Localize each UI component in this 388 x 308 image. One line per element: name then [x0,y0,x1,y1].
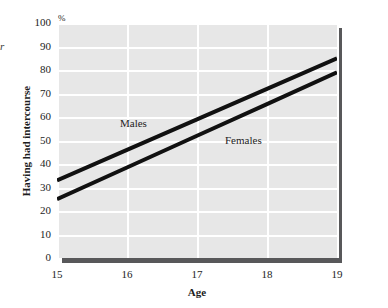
cropped-caption-fragment: r [0,40,7,52]
y-axis-tick-label: 0 [21,252,51,263]
y-axis-tick-label: 100 [21,17,51,28]
series-line-males [57,58,337,180]
x-axis-tick-label: 19 [320,268,354,280]
x-axis-tick-label: 15 [40,268,74,280]
x-axis-title: Age [57,286,337,298]
series-line-females [57,72,337,199]
y-axis-unit-label: % [58,13,66,23]
series-label-females: Females [225,134,262,146]
gridline-vertical [337,23,339,258]
x-axis-tick-label: 18 [250,268,284,280]
y-axis-title: Having had intercourse [20,51,32,231]
chart-figure: r % 0102030405060708090100 1516171819 Ma… [0,0,388,308]
series-label-males: Males [120,117,147,129]
x-axis-tick-label: 17 [180,268,214,280]
x-axis-tick-label: 16 [110,268,144,280]
series-layer [57,23,337,258]
y-axis-tick-label: 90 [21,41,51,52]
